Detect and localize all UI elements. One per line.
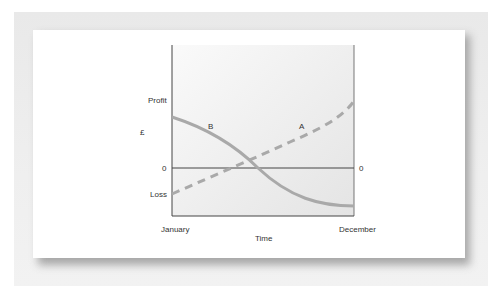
- series-a-label: A: [299, 122, 305, 131]
- profit-loss-chart: Profit £ 0 Loss 0 January December Time …: [0, 0, 498, 295]
- plot-area: [172, 45, 354, 216]
- currency-label: £: [140, 128, 145, 137]
- loss-label: Loss: [150, 190, 167, 199]
- zero-right-label: 0: [359, 164, 364, 173]
- series-b-label: B: [208, 122, 213, 131]
- december-label: December: [339, 225, 376, 234]
- profit-label: Profit: [148, 96, 167, 105]
- january-label: January: [161, 225, 189, 234]
- time-axis-label: Time: [255, 234, 273, 243]
- zero-left-label: 0: [162, 164, 167, 173]
